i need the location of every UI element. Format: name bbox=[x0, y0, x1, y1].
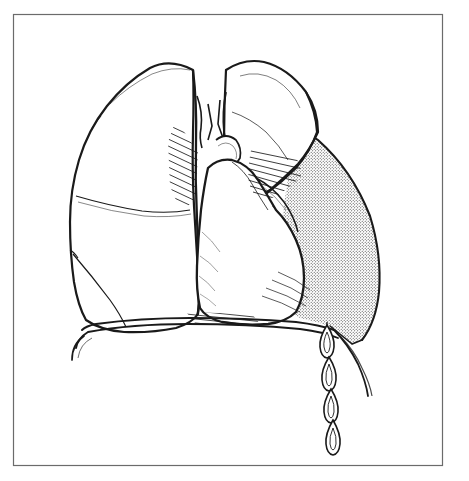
illustration-canvas: Anterior view of the thorax showing lung… bbox=[0, 0, 469, 481]
anatomy-figure: Anterior view of the thorax showing lung… bbox=[0, 0, 469, 481]
